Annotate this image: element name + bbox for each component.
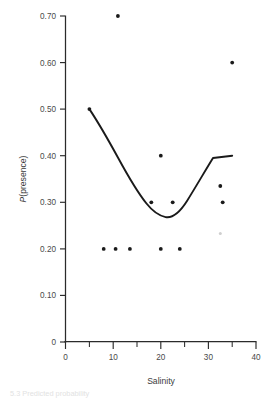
data-point (149, 200, 153, 204)
data-point (116, 14, 120, 18)
data-point (159, 247, 163, 251)
x-axis-tick-labels: 0 10 20 30 40 (63, 353, 261, 362)
y-axis-tick-labels: 0.70 0.60 0.50 0.40 0.30 0.20 0.10 0 (40, 12, 56, 347)
y-tick-label-040: 0.40 (40, 152, 56, 161)
data-point (102, 247, 106, 251)
x-tick-label-40: 40 (251, 353, 261, 362)
x-tick-label-0: 0 (63, 353, 68, 362)
y-tick-label-030: 0.30 (40, 198, 56, 207)
data-point (128, 247, 132, 251)
y-tick-label-0: 0 (51, 338, 56, 347)
y-tick-label-070: 0.70 (40, 12, 56, 21)
fitted-curve (89, 109, 232, 217)
y-axis-title-presence: (presence) (18, 155, 28, 196)
figure-container: 0.70 0.60 0.50 0.40 0.30 0.20 0.10 0 0 (0, 0, 275, 399)
x-tick-label-20: 20 (156, 353, 166, 362)
data-point (218, 184, 222, 188)
y-tick-label-050: 0.50 (40, 105, 56, 114)
figure-caption: 5.3 Predicted probability (0, 388, 275, 399)
data-point (88, 107, 92, 111)
scatter-plot: 0.70 0.60 0.50 0.40 0.30 0.20 0.10 0 0 (0, 0, 275, 399)
x-axis-title: Salinity (147, 376, 175, 386)
data-point (178, 247, 182, 251)
x-tick-label-30: 30 (204, 353, 214, 362)
faint-artifact-point (219, 232, 222, 235)
x-tick-label-10: 10 (109, 353, 119, 362)
data-point (171, 200, 175, 204)
y-tick-label-010: 0.10 (40, 291, 56, 300)
data-point (230, 61, 234, 65)
data-point (114, 247, 118, 251)
svg-text:P(presence): P(presence) (18, 155, 28, 202)
y-tick-label-060: 0.60 (40, 59, 56, 68)
y-axis-title: P(presence) (18, 155, 28, 202)
y-tick-label-020: 0.20 (40, 245, 56, 254)
data-point (221, 200, 225, 204)
x-axis-major-ticks (66, 342, 257, 349)
y-axis-ticks (60, 16, 65, 342)
data-point (159, 154, 163, 158)
